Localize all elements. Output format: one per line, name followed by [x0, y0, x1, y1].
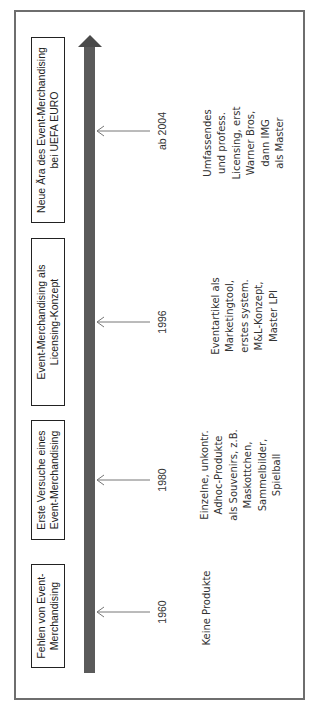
description-line: Eventartikel als [209, 277, 224, 354]
phase-text: bei UEFA EURO [48, 91, 61, 168]
description-line: Adhoc-Produkte [212, 436, 227, 515]
year-label-1960: 1960 [154, 592, 170, 632]
phase-text: Merchandising [48, 582, 61, 650]
year-label-1996: 1996 [154, 302, 170, 342]
year-label-2004: ab 2004 [154, 105, 170, 157]
description-line: dann IMG [259, 119, 274, 167]
description-1960: Keine Produkte [197, 568, 217, 648]
phase-text: Neue Ära des Event-Merchandising [35, 47, 48, 213]
description-line: Warner Bros, [244, 111, 259, 175]
description-line: Umfassendes [201, 109, 216, 176]
timeline-arrow-shaft [84, 46, 95, 673]
description-line: Einzelne, unkontr. [198, 430, 213, 519]
phase-text: Licensing-Konzept [48, 279, 61, 365]
description-line: Master LPI [267, 290, 282, 342]
description-line: Spielball [270, 454, 285, 496]
description-line: und profess. [215, 112, 230, 174]
description-line: Maskottchen, [241, 442, 256, 509]
phase-box-2004: Neue Ära des Event-Merchandising bei UEF… [31, 37, 65, 223]
phase-box-1960: Fehlen von Event- Merchandising [31, 564, 65, 668]
description-line: Sammelbilder, [256, 439, 271, 512]
description-line: M&L-Konzept, [252, 282, 267, 351]
description-line: erstes system. [238, 279, 253, 352]
description-line: als Master [273, 117, 288, 168]
description-line: als Souvenirs, z.B. [227, 429, 242, 520]
description-1980: Einzelne, unkontr. Adhoc-Produkte als So… [196, 425, 286, 525]
pointer-arrow-1960 [97, 607, 150, 617]
phase-box-1996: Event-Merchandising als Licensing-Konzep… [31, 238, 65, 406]
timeline-arrow-head [78, 35, 102, 47]
phase-box-1980: Erste Versuche eines Event-Merchandising [31, 420, 65, 540]
description-line: Marketingtool, [223, 280, 238, 352]
description-line: Licensing, erst [230, 107, 245, 180]
pointer-arrow-1980 [97, 475, 150, 485]
phase-text: Event-Merchandising als [35, 265, 48, 380]
description-line: Keine Produkte [200, 570, 215, 645]
phase-text: Erste Versuche eines [35, 430, 48, 529]
description-1996: Eventartikel als Marketingtool, erstes s… [207, 271, 283, 361]
phase-text: Fehlen von Event- [35, 573, 48, 658]
description-2004: Umfassendes und profess. Licensing, erst… [199, 99, 289, 187]
pointer-arrow-ab-2004 [97, 126, 150, 136]
year-label-1980: 1980 [154, 460, 170, 500]
pointer-arrow-1996 [97, 317, 150, 327]
phase-text: Event-Merchandising [48, 431, 61, 530]
